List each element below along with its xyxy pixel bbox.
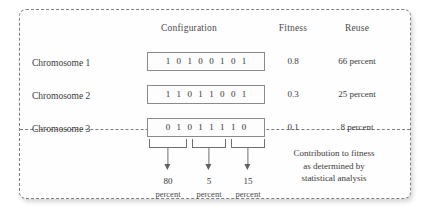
column-header-reuse: Reuse [327,23,387,33]
bit-cell: 1 [209,90,214,99]
group-bracket [231,139,265,148]
bit-cell: 0 [231,57,236,66]
contribution-unit: percent [146,189,190,199]
contribution-value: 15 [228,176,268,186]
chromosome-label: Chromosome 1 [32,58,136,68]
arrow-head-icon [205,164,211,170]
contribution-unit: percent [187,189,231,199]
arrow-head-icon [244,164,250,170]
arrow-stem [167,148,168,165]
note-line-1: Contribution to fitness [268,147,400,160]
contribution-value: 80 [148,176,188,186]
chromosome-bitstring: 1 0 1 0 0 1 0 1 [147,52,265,71]
bit-cell: 0 [187,90,192,99]
diagram-container: Configuration Fitness Reuse Chromosome 1… [19,9,411,199]
bit-cell: 1 [187,57,192,66]
bit-cell: 1 [242,90,247,99]
chromosome-bitstring: 1 1 0 1 1 0 0 1 [147,85,265,104]
bit-cell: 0 [231,90,236,99]
contribution-group: 80 percent [149,139,187,148]
bit-cell: 1 [220,57,225,66]
bit-cell: 1 [198,90,203,99]
reuse-value: 66 percent [323,56,391,66]
contribution-unit: percent [226,189,270,199]
table-row: Chromosome 1 1 0 1 0 0 1 0 1 0.8 66 perc… [20,52,410,78]
group-bracket [192,139,226,148]
contribution-group: 5 percent [192,139,226,148]
arrow-stem [208,148,209,165]
note-line-3: statistical analysis [268,172,400,185]
note-line-2: as determined by [268,160,400,173]
contribution-annotation-panel: 80 percent 5 percent 15 percent Contribu… [20,130,410,198]
reuse-value: 25 percent [323,89,391,99]
chromosome-label: Chromosome 2 [32,91,136,101]
bit-cell: 0 [198,57,203,66]
arrow-head-icon [164,164,170,170]
column-header-fitness: Fitness [263,23,323,33]
fitness-value: 0.8 [263,56,323,66]
column-header-configuration: Configuration [134,23,244,33]
table-row: Chromosome 2 1 1 0 1 1 0 0 1 0.3 25 perc… [20,85,410,111]
contribution-group: 15 percent [231,139,265,148]
group-bracket [149,139,187,148]
contribution-value: 5 [189,176,229,186]
bit-cell: 0 [209,57,214,66]
bit-cell: 1 [166,90,171,99]
fitness-value: 0.3 [263,89,323,99]
annotation-note: Contribution to fitness as determined by… [268,147,400,185]
arrow-stem [247,148,248,165]
bit-cell: 1 [177,90,182,99]
bit-cell: 0 [220,90,225,99]
bit-cell: 1 [166,57,171,66]
bit-cell: 1 [242,57,247,66]
bit-cell: 0 [177,57,182,66]
